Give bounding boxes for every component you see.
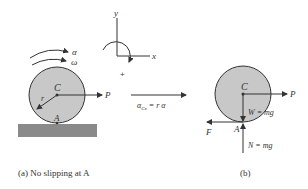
axes-indicator: y x + — [103, 8, 156, 79]
caption-b: (b) — [240, 168, 251, 178]
diagram-canvas: α ω C r A P y x + αCx= r α C P W = mg — [0, 0, 308, 189]
omega-label: ω — [71, 57, 77, 67]
equation-rhs: = r α — [149, 101, 167, 110]
contact-label-b: A — [233, 124, 240, 134]
x-axis-label: x — [151, 51, 156, 61]
center-label-a: C — [54, 82, 61, 93]
force-p-label-a: P — [104, 90, 111, 100]
weight-label: W = mg — [248, 108, 274, 117]
ground — [18, 124, 97, 137]
subscript-cx: Cx — [141, 106, 147, 111]
kinematic-relation: αCx= r α — [131, 95, 186, 111]
omega-arc-arrow — [32, 59, 66, 65]
positive-sign: + — [120, 70, 125, 79]
figure-b: C P W = mg A F N = mg — [205, 66, 296, 153]
figure-a: α ω C r A P — [18, 47, 111, 137]
center-label-b: C — [241, 81, 248, 92]
alpha-arc-arrow — [30, 50, 68, 58]
normal-label: N = mg — [247, 141, 273, 150]
acceleration-equation: αCx= r α — [137, 101, 166, 111]
caption-a: (a) No slipping at A — [18, 168, 90, 178]
y-axis-label: y — [113, 8, 118, 18]
contact-label-a: A — [53, 113, 60, 123]
alpha-label: α — [72, 47, 77, 57]
friction-label: F — [205, 127, 212, 137]
force-p-label-b: P — [289, 89, 296, 99]
